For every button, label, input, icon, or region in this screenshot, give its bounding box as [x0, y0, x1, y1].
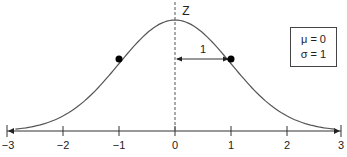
tick-label: −3	[2, 140, 15, 151]
right-arrow-icon	[334, 128, 340, 134]
normal-curve-diagram	[0, 0, 347, 157]
legend-mu: μ = 0	[291, 32, 336, 47]
z-label: Z	[182, 5, 189, 17]
tick-label: 2	[284, 140, 290, 151]
tick-label: −2	[57, 140, 70, 151]
tick-label: 3	[338, 140, 344, 151]
tick-label: 0	[172, 140, 178, 151]
tick-label: −1	[113, 140, 126, 151]
point-minus-one	[116, 56, 123, 63]
left-arrow-icon	[8, 128, 14, 134]
distance-label: 1	[200, 44, 206, 55]
legend-sigma: σ = 1	[291, 47, 336, 62]
legend-box: μ = 0 σ = 1	[290, 27, 337, 67]
point-plus-one	[228, 56, 235, 63]
tick-label: 1	[228, 140, 234, 151]
